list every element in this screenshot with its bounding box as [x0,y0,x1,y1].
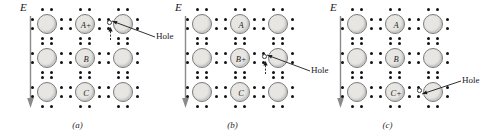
electron-dot [88,37,91,40]
lattice-cell: B [378,42,412,75]
electron-dot [215,95,218,98]
electron-dot [398,37,401,40]
electron-dot [398,71,401,74]
electron-dot [196,71,199,74]
lattice-cell [185,76,219,109]
electron-dot [31,95,34,98]
electron-dot [79,42,82,45]
lattice-cell [340,42,374,75]
electron-dot [360,37,363,40]
electron-dot [272,37,275,40]
electron-dot [360,76,363,79]
electron-dot [224,61,227,64]
electron-dot [69,86,72,89]
electron-dot [427,71,430,74]
electron-dot [79,105,82,108]
electron-dot [360,105,363,108]
electron-dot [60,18,63,21]
atom-core: C [75,82,95,102]
electron-dot [69,27,72,30]
electron-dot [60,95,63,98]
electron-dot [79,8,82,11]
atom-core: B [385,48,405,68]
electron-dot [88,8,91,11]
atom-label: A [231,15,251,35]
electron-dot [50,37,53,40]
electron-dot [370,52,373,55]
electron-dot [107,95,110,98]
electron-dot [351,105,354,108]
electron-dot [186,18,189,21]
electron-dot [50,8,53,11]
electron-dot [427,42,430,45]
lattice-cell [340,8,374,41]
electron-dot [436,76,439,79]
electron-dot [224,86,227,89]
electron-dot [351,8,354,11]
electron-dot [98,61,101,64]
atom-core [37,48,57,68]
atom-core [192,82,212,102]
panel-b: E AB+CHole (b) [155,0,310,133]
electron-dot [446,61,449,64]
electron-dot [88,76,91,79]
atom-core: B [75,48,95,68]
electron-dot [41,71,44,74]
lattice-c: ABC+Hole [340,8,452,112]
electron-dot [398,42,401,45]
electron-dot [389,105,392,108]
electron-dot [50,76,53,79]
electron-dot [243,76,246,79]
electron-dot [50,71,53,74]
electron-dot [389,8,392,11]
electron-dot [88,42,91,45]
electron-dot [398,105,401,108]
electron-dot [341,27,344,30]
electron-dot [136,95,139,98]
lattice-cell: C+ [378,76,412,109]
electron-dot [351,71,354,74]
electron-dot [253,18,256,21]
lattice-cell [416,8,450,41]
electron-dot [69,61,72,64]
electron-dot [427,76,430,79]
electron-dot [341,52,344,55]
atom-core: A [230,14,250,34]
atom-core [192,14,212,34]
electron-dot [281,8,284,11]
electron-dot [117,8,120,11]
electron-dot [215,61,218,64]
electron-dot [98,18,101,21]
electron-dot [436,71,439,74]
atom-core: A+ [75,14,95,34]
electron-dot [41,8,44,11]
atom-label: C [76,83,96,103]
electron-dot [446,18,449,21]
electron-dot [417,61,420,64]
electron-dot [389,42,392,45]
electron-dot [215,27,218,30]
electron-dot [398,8,401,11]
atom-core [37,82,57,102]
electron-dot [69,52,72,55]
atom-label: B [76,49,96,69]
atom-core [347,82,367,102]
electron-dot [243,8,246,11]
electron-dot [417,27,420,30]
lattice-cell: A+ [68,8,102,41]
panel-caption-b: (b) [155,120,310,130]
electron-dot [243,105,246,108]
electron-dot [98,27,101,30]
electron-dot [31,52,34,55]
atom-label: A+ [76,15,96,35]
atom-label: A [386,15,406,35]
electron-dot [196,37,199,40]
electron-dot [205,42,208,45]
electron-dot [446,27,449,30]
electron-dot [79,37,82,40]
electron-dot [281,37,284,40]
hole-leader-line [415,80,484,140]
panel-caption-a: (a) [0,120,155,130]
electron-dot [291,18,294,21]
electron-dot [370,86,373,89]
